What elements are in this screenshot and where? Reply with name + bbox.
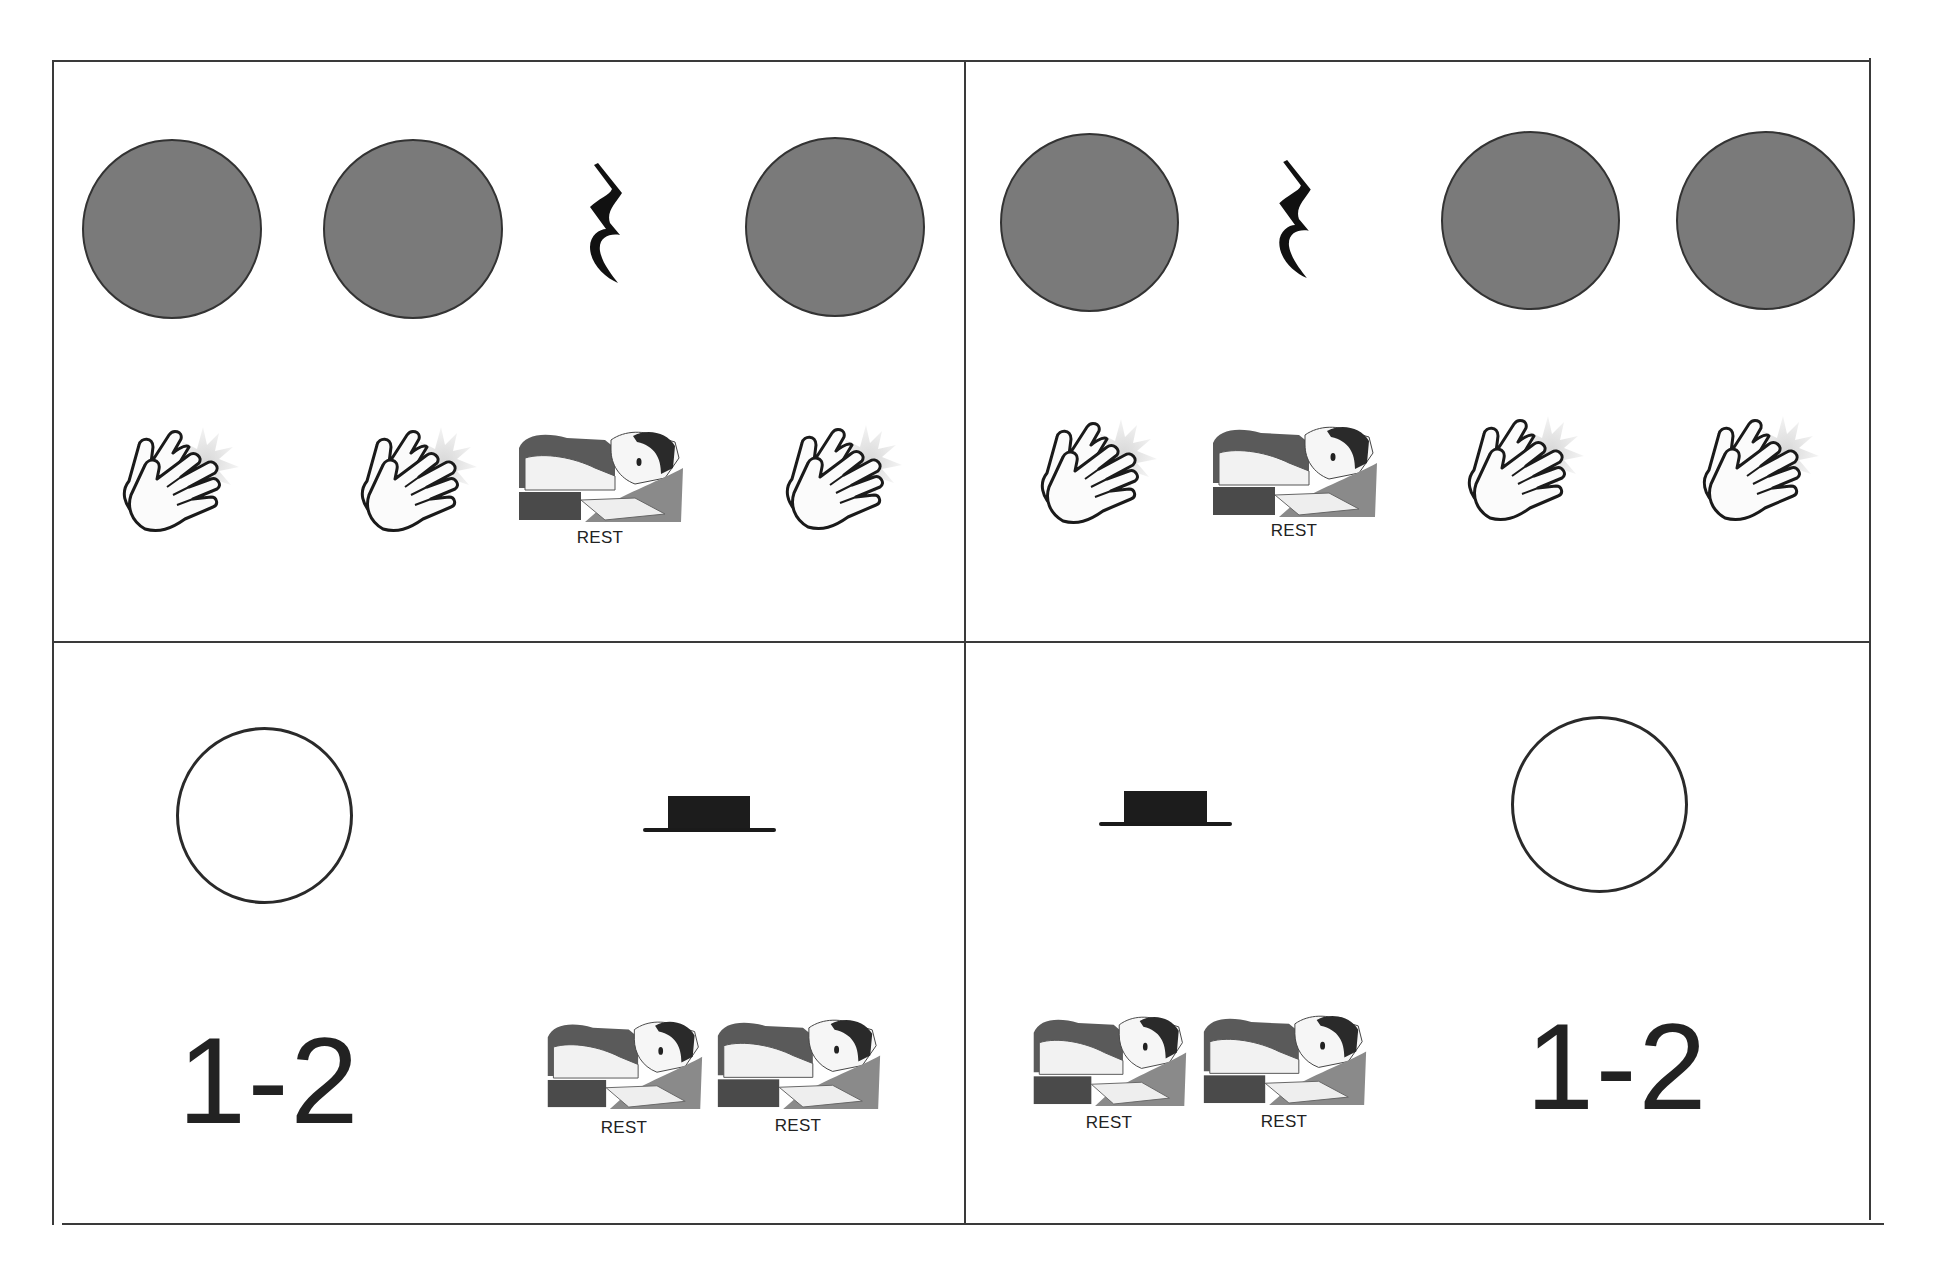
quarter-note-3 — [745, 137, 925, 317]
rest-label: REST — [1030, 1113, 1188, 1133]
rest-picture: REST — [544, 1018, 704, 1143]
half-rest-line — [643, 828, 776, 832]
quarter-rest-icon — [588, 163, 624, 285]
quarter-note-1 — [1000, 133, 1179, 312]
half-rest-icon — [1099, 791, 1232, 826]
rest-picture: REST — [1208, 423, 1380, 548]
rest-picture: REST — [1199, 1012, 1369, 1137]
count-label: 1-2 — [1526, 1006, 1708, 1128]
rest-picture: REST — [514, 428, 686, 553]
half-rest-icon — [643, 796, 776, 832]
rest-picture: REST — [713, 1016, 883, 1141]
half-note — [176, 727, 353, 904]
rest-label: REST — [1208, 521, 1380, 541]
rest-picture: REST — [1030, 1013, 1188, 1138]
quarter-note-3 — [1676, 131, 1855, 310]
rest-label: REST — [514, 528, 686, 548]
clapping-hands-icon — [353, 425, 483, 545]
rest-label: REST — [1199, 1112, 1369, 1132]
rest-label: REST — [713, 1116, 883, 1136]
clapping-hands-icon — [115, 425, 245, 545]
sleeping-child-icon — [1208, 423, 1380, 518]
sleeping-child-icon — [1199, 1012, 1369, 1106]
quarter-note-2 — [1441, 131, 1620, 310]
frame-bottom-border — [62, 1223, 1884, 1225]
count-label: 1-2 — [178, 1020, 360, 1142]
half-rest-block — [1124, 791, 1207, 823]
rest-label: REST — [544, 1118, 704, 1138]
clapping-hands-icon — [1033, 417, 1163, 537]
quarter-rest-icon — [1277, 160, 1313, 280]
frame-middle-divider — [54, 641, 1870, 643]
sleeping-child-icon — [713, 1016, 883, 1110]
sleeping-child-icon — [1030, 1013, 1188, 1107]
quarter-note-2 — [323, 139, 503, 319]
half-rest-block — [668, 796, 750, 829]
sleeping-child-icon — [544, 1018, 704, 1110]
clapping-hands-icon — [778, 423, 908, 543]
half-rest-line — [1099, 822, 1232, 826]
clapping-hands-icon — [1695, 414, 1825, 534]
quarter-note-1 — [82, 139, 262, 319]
sleeping-child-icon — [514, 428, 686, 523]
frame-right-border — [1869, 58, 1871, 1220]
clapping-hands-icon — [1460, 414, 1590, 534]
half-note — [1511, 716, 1688, 893]
frame-top-border — [52, 60, 1870, 62]
